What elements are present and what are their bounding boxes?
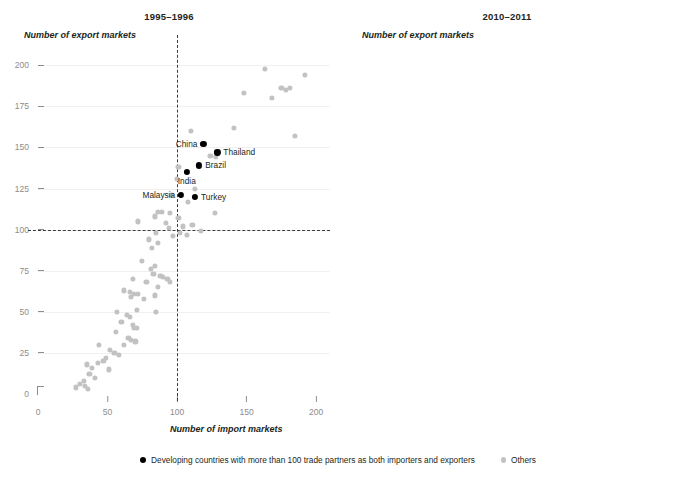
data-point-other — [84, 362, 89, 367]
y-axis-tick-label: 50 — [20, 307, 38, 317]
chart-panel-1995-1996: 1995–1996 Number of export markets 02550… — [0, 0, 338, 440]
chart-legend: Developing countries with more than 100 … — [0, 452, 676, 468]
data-point-other — [177, 230, 182, 235]
tick-mark — [38, 188, 44, 189]
data-point-other — [134, 326, 139, 331]
data-point-other — [168, 211, 173, 216]
x-axis-tick-label: 0 — [36, 394, 41, 417]
data-point-other — [106, 367, 111, 372]
y-axis-title: Number of export markets — [24, 30, 136, 40]
data-point-other — [155, 240, 160, 245]
data-point-other — [136, 219, 141, 224]
data-point-other — [193, 186, 198, 191]
figure-canvas: 1995–1996 Number of export markets 02550… — [0, 0, 676, 480]
data-point-label: India — [178, 177, 196, 185]
legend-label: Developing countries with more than 100 … — [151, 455, 475, 465]
x-axis-tick-label: 150 — [239, 394, 253, 417]
data-point-label: China — [176, 140, 198, 148]
data-point-other — [136, 291, 141, 296]
legend-label: Others — [511, 455, 536, 465]
data-point-other — [101, 359, 106, 364]
legend-item-others: Others — [501, 455, 536, 465]
data-point-other — [154, 230, 159, 235]
y-axis-tick-label: 175 — [15, 101, 38, 111]
data-point-highlighted[interactable] — [178, 192, 184, 198]
data-point-other — [198, 229, 203, 234]
x-axis-title: Number of import markets — [170, 424, 283, 434]
data-point-other — [97, 342, 102, 347]
data-point-other — [262, 66, 267, 71]
chart-panel-2010-2011: 2010–2011 Number of export markets 02550… — [338, 0, 676, 440]
data-point-other — [293, 133, 298, 138]
legend-item-highlighted: Developing countries with more than 100 … — [140, 455, 475, 465]
data-point-other — [151, 271, 156, 276]
tick-mark — [38, 106, 44, 107]
data-point-other — [73, 385, 78, 390]
data-point-other — [144, 280, 149, 285]
data-point-other — [113, 329, 118, 334]
gridline — [38, 353, 330, 354]
data-point-other — [168, 280, 173, 285]
data-point-other — [152, 293, 157, 298]
data-point-other — [92, 375, 97, 380]
data-point-other — [133, 339, 138, 344]
other-dot-icon — [501, 457, 506, 462]
data-point-other — [269, 96, 274, 101]
data-point-other — [184, 232, 189, 237]
data-point-other — [186, 199, 191, 204]
data-point-other — [141, 296, 146, 301]
data-point-other — [213, 155, 218, 160]
x-axis-tick-label: 50 — [103, 394, 112, 417]
y-axis-title: Number of export markets — [362, 30, 474, 40]
panel-title: 2010–2011 — [338, 11, 676, 22]
data-point-other — [190, 222, 195, 227]
data-point-other — [212, 211, 217, 216]
data-point-label: Brazil — [205, 161, 226, 169]
data-point-other — [90, 365, 95, 370]
data-point-other — [140, 258, 145, 263]
data-point-other — [152, 214, 157, 219]
data-point-other — [208, 153, 213, 158]
tick-mark — [316, 396, 317, 402]
gridline — [38, 189, 330, 190]
data-point-other — [115, 309, 120, 314]
data-point-other — [188, 128, 193, 133]
data-point-other — [283, 87, 288, 92]
y-axis-tick-label: 200 — [15, 60, 38, 70]
data-point-other — [180, 224, 185, 229]
data-point-highlighted[interactable] — [192, 194, 198, 200]
y-axis-tick-label: 125 — [15, 184, 38, 194]
gridline — [38, 106, 330, 107]
data-point-other — [127, 314, 132, 319]
data-point-highlighted[interactable] — [196, 162, 202, 168]
tick-mark — [38, 65, 44, 66]
data-point-other — [302, 72, 307, 77]
data-point-label: Turkey — [201, 193, 226, 201]
data-point-other — [116, 352, 121, 357]
data-point-other — [149, 245, 154, 250]
data-point-other — [159, 209, 164, 214]
gridline — [38, 271, 330, 272]
y-axis-tick-label: 25 — [20, 348, 38, 358]
data-point-other — [95, 360, 100, 365]
tick-mark — [107, 396, 108, 402]
y-axis-tick-label: 150 — [15, 142, 38, 152]
data-point-label: Malaysia — [142, 191, 175, 199]
tick-mark — [38, 270, 44, 271]
data-point-highlighted[interactable] — [214, 149, 220, 155]
data-point-other — [176, 165, 181, 170]
tick-mark — [246, 396, 247, 402]
data-point-other — [130, 276, 135, 281]
data-point-other — [122, 288, 127, 293]
axis-corner-mark — [37, 386, 44, 387]
panel-title: 1995–1996 — [0, 11, 338, 22]
data-point-other — [231, 125, 236, 130]
tick-mark — [38, 352, 44, 353]
x-axis-tick-label: 200 — [309, 394, 323, 417]
data-point-other — [87, 372, 92, 377]
data-point-highlighted[interactable] — [200, 141, 206, 147]
data-point-highlighted[interactable] — [184, 169, 190, 175]
data-point-other — [154, 309, 159, 314]
data-point-other — [129, 294, 134, 299]
data-point-other — [147, 237, 152, 242]
